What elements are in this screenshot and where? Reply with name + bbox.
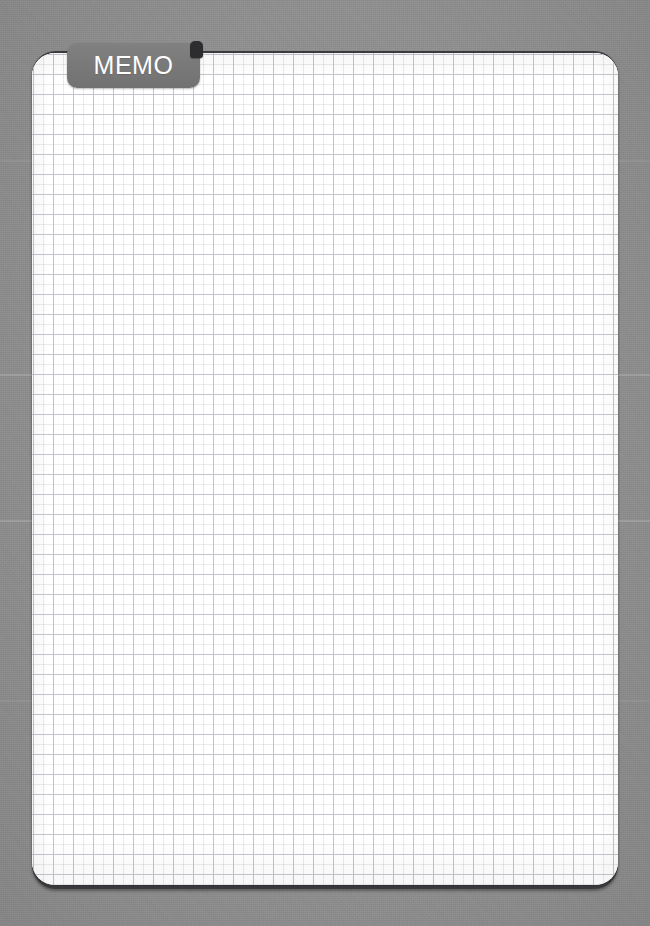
memo-screen: MEMO <box>0 0 650 926</box>
sheet-face[interactable] <box>32 53 618 885</box>
memo-text-area[interactable] <box>44 65 606 873</box>
memo-tab[interactable]: MEMO <box>67 43 200 88</box>
memo-tab-label: MEMO <box>94 53 174 78</box>
memo-sheet[interactable] <box>32 51 618 889</box>
tab-binding-notch <box>190 41 203 58</box>
